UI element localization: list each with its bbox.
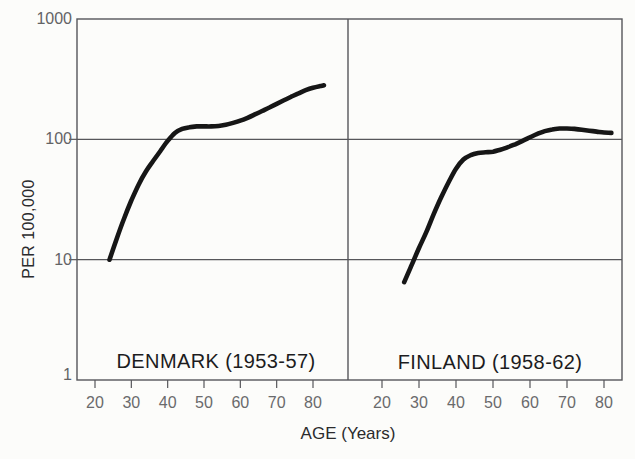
x-tick-label: 80 bbox=[595, 394, 613, 412]
y-tick-label: 1 bbox=[63, 366, 72, 384]
panel-title-finland: FINLAND (1958-62) bbox=[398, 351, 583, 374]
y-tick-label: 100 bbox=[45, 130, 72, 148]
x-tick-label: 40 bbox=[159, 394, 177, 412]
x-tick-label: 30 bbox=[410, 394, 428, 412]
y-tick-label: 1000 bbox=[36, 10, 72, 28]
curve-denmark bbox=[110, 85, 324, 259]
y-axis-title: PER 100,000 bbox=[20, 179, 38, 279]
x-tick-label: 50 bbox=[195, 394, 213, 412]
chart-canvas bbox=[0, 0, 635, 459]
x-tick-label: 50 bbox=[484, 394, 502, 412]
x-tick-label: 20 bbox=[373, 394, 391, 412]
plot-frame bbox=[77, 19, 622, 380]
x-tick-label: 30 bbox=[122, 394, 140, 412]
x-axis-title: AGE (Years) bbox=[301, 424, 396, 444]
panel-title-denmark: DENMARK (1953-57) bbox=[116, 350, 315, 373]
y-tick-label: 10 bbox=[54, 251, 72, 269]
x-tick-label: 70 bbox=[558, 394, 576, 412]
x-tick-label: 40 bbox=[447, 394, 465, 412]
x-tick-label: 60 bbox=[521, 394, 539, 412]
x-tick-label: 60 bbox=[231, 394, 249, 412]
figure: PER 100,000 AGE (Years) DENMARK (1953-57… bbox=[0, 0, 635, 459]
x-tick-label: 80 bbox=[304, 394, 322, 412]
x-tick-label: 70 bbox=[268, 394, 286, 412]
x-tick-label: 20 bbox=[86, 394, 104, 412]
